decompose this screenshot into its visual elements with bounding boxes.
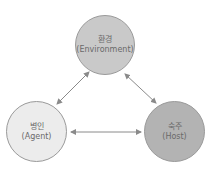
node-host: 숙주 (Host) (144, 101, 205, 162)
node-environment: 환경 (Environment) (75, 15, 135, 75)
node-host-label-en: (Host) (162, 132, 186, 142)
node-agent: 병인 (Agent) (6, 101, 67, 162)
edge-environment-host (125, 74, 156, 103)
node-environment-label-ko: 환경 (98, 35, 112, 45)
edge-environment-agent (57, 72, 89, 104)
node-agent-label-en: (Agent) (22, 132, 52, 142)
node-environment-label-en: (Environment) (76, 45, 133, 55)
node-host-label-ko: 숙주 (168, 122, 182, 132)
node-agent-label-ko: 병인 (30, 122, 44, 132)
